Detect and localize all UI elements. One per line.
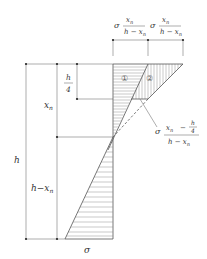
svg-text:h − xn: h − xn bbox=[168, 138, 190, 147]
svg-text:4: 4 bbox=[190, 127, 195, 134]
label-sigma-bottom: σ bbox=[84, 245, 91, 255]
svg-text:xn: xn bbox=[162, 16, 169, 25]
top-left-label: σ xn h − xn bbox=[114, 16, 146, 37]
svg-text:h: h bbox=[66, 73, 71, 82]
svg-text:4: 4 bbox=[65, 85, 71, 94]
svg-text:h − xn: h − xn bbox=[124, 28, 146, 37]
svg-text:xn: xn bbox=[166, 124, 173, 133]
label-h: h bbox=[14, 155, 20, 165]
callout-leader bbox=[140, 99, 157, 127]
callout-label: σ xn − h 4 h − xn bbox=[155, 119, 199, 147]
stress-diagram: σ xn h − xn σ xn h − xn h xn h 4 h−xn bbox=[0, 0, 207, 259]
top-dimension bbox=[112, 39, 184, 56]
svg-text:xn: xn bbox=[126, 16, 133, 25]
svg-text:σ: σ bbox=[150, 21, 156, 30]
stress-outline bbox=[65, 64, 183, 239]
label-h-minus-xn: h−xn bbox=[31, 183, 53, 194]
label-xn: xn bbox=[44, 100, 53, 111]
svg-text:h − xn: h − xn bbox=[160, 28, 182, 37]
region-1-label: ① bbox=[121, 74, 128, 83]
svg-text:h: h bbox=[191, 119, 195, 126]
region-2-label: ② bbox=[146, 74, 153, 83]
svg-text:σ: σ bbox=[155, 127, 161, 136]
label-h-over-4: h 4 bbox=[64, 73, 73, 94]
svg-text:−: − bbox=[180, 124, 186, 132]
svg-text:σ: σ bbox=[114, 21, 120, 30]
top-right-label: σ xn h − xn bbox=[150, 16, 182, 37]
tension-hatch bbox=[60, 142, 115, 236]
